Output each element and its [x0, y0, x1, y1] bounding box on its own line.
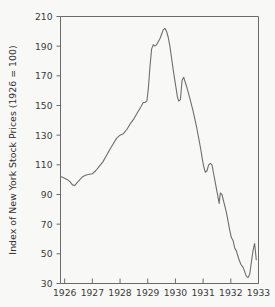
y-tick-label: 190 [35, 41, 53, 52]
y-tick-label: 30 [41, 278, 53, 289]
x-tick-label: 1927 [81, 287, 105, 298]
x-tick-label: 1926 [53, 287, 77, 298]
chart-canvas: Index of New York Stock Prices (1926 = 1… [0, 0, 275, 307]
y-tick-label: 90 [41, 189, 53, 200]
x-tick-label: 1931 [191, 287, 214, 298]
y-tick-label: 130 [35, 130, 53, 141]
x-tick-label: 1932 [219, 287, 242, 298]
y-tick-label: 70 [41, 219, 53, 230]
x-tick-label: 1930 [164, 287, 188, 298]
stock-price-line-chart: Index of New York Stock Prices (1926 = 1… [0, 0, 275, 307]
y-tick-label: 170 [35, 70, 53, 81]
y-tick-label: 210 [35, 11, 53, 22]
x-tick-label: 1933 [247, 287, 271, 298]
y-axis-title: Index of New York Stock Prices (1926 = 1… [7, 45, 18, 254]
x-tick-label: 1928 [108, 287, 132, 298]
y-tick-label: 150 [35, 100, 53, 111]
y-tick-label: 110 [35, 159, 53, 170]
y-tick-label: 50 [41, 248, 53, 259]
x-tick-label: 1929 [136, 287, 160, 298]
